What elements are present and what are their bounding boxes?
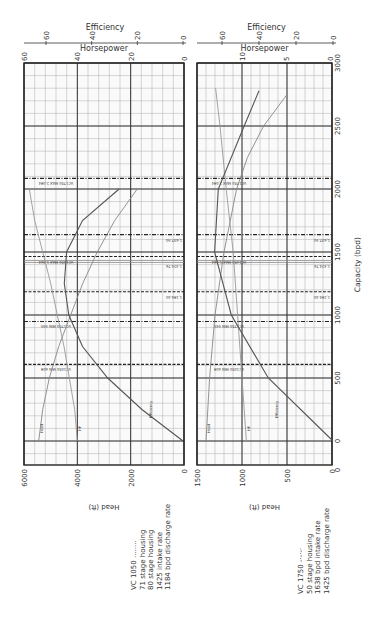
reference-line-label: VC1050 MIN 608 xyxy=(213,367,244,371)
curve-label-head: Head xyxy=(40,424,44,433)
legend-vc1050-line: 71 stage housing xyxy=(139,504,148,590)
legend-vc1750-line: 50 stage housing xyxy=(306,508,315,594)
head-tick-label: 6000 xyxy=(21,469,29,487)
reference-line-label: 1,637.90 xyxy=(165,238,182,242)
efficiency-tick-label: 0 xyxy=(180,36,188,40)
reference-line-label: VC1750 MAX 2,084 xyxy=(38,181,73,185)
capacity-tick-label: 500 xyxy=(334,371,342,384)
capacity-tick-label: 1000 xyxy=(334,306,342,324)
efficiency-tick-label: 60 xyxy=(219,31,227,40)
efficiency-tick-label: 40 xyxy=(89,31,97,40)
capacity-zero-bottom: 0 xyxy=(334,468,342,472)
efficiency-tick-label: 40 xyxy=(256,31,264,40)
legend-vc1750-line: 1638 bpd intake rate xyxy=(314,508,323,594)
reference-line-label: VC1050 MAX 1,464 xyxy=(38,260,73,264)
curve-label-head: Head xyxy=(207,424,211,433)
legend-vc1750-title: VC 1750 -·-·-· xyxy=(297,508,306,594)
reference-line-label: 1,637.90 xyxy=(313,238,330,242)
head-tick-label: 1500 xyxy=(194,469,202,487)
legend-vc1750: VC 1750 -·-·-· 50 stage housing 1638 bpd… xyxy=(297,508,331,594)
capacity-tick-label: 2500 xyxy=(334,117,342,135)
head-axis-title: Head (ft) xyxy=(88,503,119,511)
capacity-tick-label: 2000 xyxy=(334,180,342,198)
curve-label-efficiency: Efficiency xyxy=(275,400,279,418)
horsepower-tick-label: 5 xyxy=(283,57,291,61)
curve-label-hp: HP xyxy=(247,425,251,431)
horsepower-axis-title: Horsepower xyxy=(80,44,129,53)
horsepower-tick-label: 40 xyxy=(74,52,82,61)
reference-line-label: VC1050 MIN 608 xyxy=(40,367,71,371)
capacity-tick-label: 0 xyxy=(334,439,342,443)
horsepower-tick-label: 20 xyxy=(128,52,136,61)
horsepower-tick-label: 60 xyxy=(21,52,29,61)
head-tick-label: 0 xyxy=(181,469,189,473)
head-tick-label: 500 xyxy=(284,469,292,482)
capacity-tick-label: 3000 xyxy=(334,54,342,72)
reference-line-label: 1,424.76 xyxy=(313,264,330,268)
legend-vc1050-line: 80 stage housing xyxy=(147,504,156,590)
horsepower-tick-label: 0 xyxy=(181,57,189,61)
horsepower-tick-label: 10 xyxy=(239,52,247,61)
reference-line-label: 1,424.76 xyxy=(165,264,182,268)
head-tick-label: 1000 xyxy=(239,469,247,487)
curve-label-efficiency: Efficiency xyxy=(149,400,153,418)
head-axis-title: Head (ft) xyxy=(249,503,280,511)
reference-line-label: 1,184.40 xyxy=(165,295,182,299)
efficiency-tick-label: 20 xyxy=(134,31,142,40)
efficiency-tick-label: 0 xyxy=(330,36,338,40)
legend-vc1050-title: VC 1050 ........ xyxy=(130,504,139,590)
efficiency-tick-label: 60 xyxy=(43,31,51,40)
capacity-tick-label: 1500 xyxy=(334,243,342,261)
reference-line-label: VC1750 MAX 2,084 xyxy=(211,181,246,185)
legend-vc1050-line: 1425 intake rate xyxy=(156,504,165,590)
efficiency-axis-title: Efficiency xyxy=(86,23,125,32)
legend-vc1750-line: 1425 bpd discharge rate xyxy=(323,508,332,594)
capacity-axis-title: Capacity (bpd) xyxy=(353,237,362,292)
reference-line-label: 1,184.40 xyxy=(313,295,330,299)
head-tick-label: 4000 xyxy=(74,469,82,487)
legend-vc1050-line: 1184 bpd discharge rate xyxy=(164,504,173,590)
horsepower-axis-title: Horsepower xyxy=(240,44,289,53)
efficiency-axis-title: Efficiency xyxy=(247,23,286,32)
legend-vc1050: VC 1050 ........ 71 stage housing 80 sta… xyxy=(130,504,173,590)
efficiency-tick-label: 20 xyxy=(293,31,301,40)
head-tick-label: 2000 xyxy=(128,469,136,487)
curve-label-hp: HP xyxy=(78,425,82,431)
